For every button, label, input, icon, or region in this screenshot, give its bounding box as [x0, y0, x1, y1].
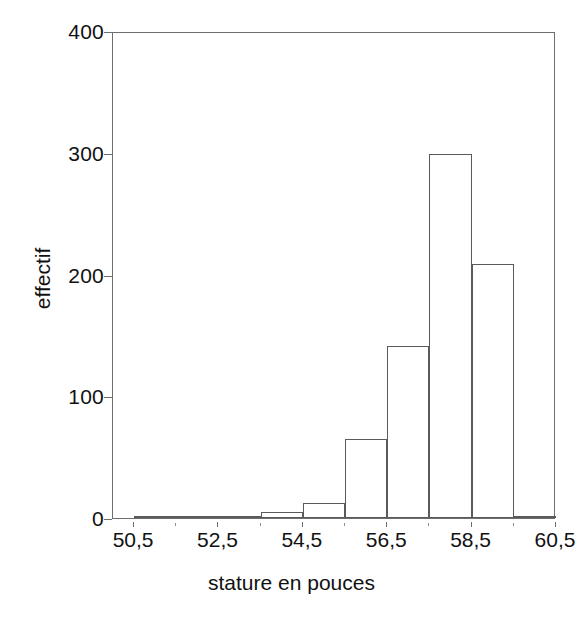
x-axis-tick-label: 60,5 — [535, 528, 576, 552]
histogram-bar — [514, 516, 556, 518]
y-axis-title: effectif — [32, 219, 53, 339]
y-axis-tick-label: 100 — [68, 386, 104, 407]
histogram-bar — [429, 154, 471, 518]
x-axis-tick-label: 56,5 — [366, 528, 407, 552]
x-axis-minor-tick-mark — [175, 523, 176, 526]
x-axis-tick-label: 50,5 — [113, 528, 154, 552]
y-axis-tick-mark — [104, 276, 112, 277]
plot-area — [112, 32, 555, 519]
y-axis-tick-mark — [104, 32, 112, 33]
bars-layer — [113, 33, 554, 518]
histogram-bar — [303, 503, 345, 518]
histogram-bar — [134, 516, 176, 518]
y-axis-tick-mark — [104, 154, 112, 155]
x-axis-tick-label: 58,5 — [450, 528, 491, 552]
x-axis-minor-tick-mark — [344, 523, 345, 526]
x-axis-tick-mark — [471, 522, 472, 527]
x-axis-tick-mark — [217, 522, 218, 527]
x-axis-tick-mark — [133, 522, 134, 527]
x-axis-minor-tick-mark — [428, 523, 429, 526]
x-axis-tick-mark — [386, 522, 387, 527]
x-axis-tick-marks — [112, 519, 556, 526]
x-axis-title: stature en pouces — [0, 571, 583, 595]
x-axis-tick-mark — [302, 522, 303, 527]
histogram-figure: 0100200300400 effectif 50,552,554,556,55… — [0, 0, 583, 617]
histogram-bar — [345, 439, 387, 518]
y-axis-tick-mark — [104, 519, 112, 520]
y-axis-tick-label: 300 — [68, 143, 104, 164]
y-axis-tick-label: 400 — [68, 21, 104, 42]
y-axis-tick-label: 0 — [92, 508, 104, 529]
y-axis-tick-mark — [104, 397, 112, 398]
x-axis-tick-mark — [555, 522, 556, 527]
histogram-bar — [472, 264, 514, 518]
histogram-bar — [387, 346, 429, 518]
x-axis-tick-label: 54,5 — [281, 528, 322, 552]
x-axis-minor-tick-mark — [260, 523, 261, 526]
histogram-bar — [218, 516, 260, 518]
histogram-bar — [176, 516, 218, 518]
y-axis-tick-label: 200 — [68, 265, 104, 286]
x-axis-minor-tick-mark — [513, 523, 514, 526]
histogram-bar — [261, 512, 303, 518]
x-axis-tick-label: 52,5 — [197, 528, 238, 552]
x-axis-tick-labels: 50,552,554,556,558,560,5 — [0, 528, 583, 554]
